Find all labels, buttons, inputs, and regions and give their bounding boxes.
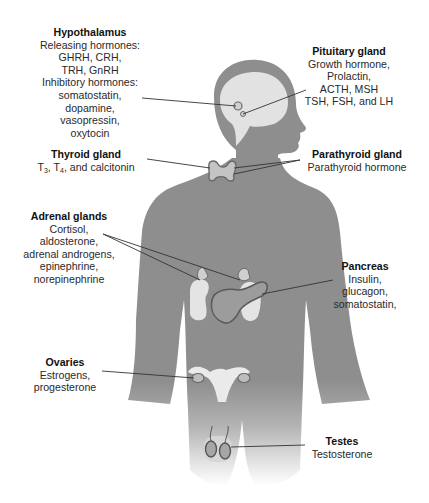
label-pituitary: Pituitary gland Growth hormone, Prolacti… <box>304 45 394 108</box>
adrenal-line: adrenal androgens, <box>14 248 124 261</box>
label-adrenal: Adrenal glands Cortisol, aldosterone, ad… <box>14 210 124 286</box>
label-hypothalamus: Hypothalamus Releasing hormones: GHRH, C… <box>30 26 150 139</box>
adrenal-title: Adrenal glands <box>14 210 124 223</box>
leader-thyroid <box>147 159 210 168</box>
pituitary-line: Prolactin, <box>304 70 394 83</box>
adrenal-line: epinephrine, <box>14 260 124 273</box>
label-testes: Testes Testosterone <box>306 435 378 460</box>
pituitary-title: Pituitary gland <box>304 45 394 58</box>
ovaries-line: progesterone <box>30 381 100 394</box>
hypothalamus-line: vasopressin, <box>30 114 150 127</box>
label-parathyroid: Parathyroid gland Parathyroid hormone <box>302 148 412 173</box>
testes-line: Testosterone <box>306 448 378 461</box>
adrenal-line: Cortisol, <box>14 223 124 236</box>
hypothalamus-line: Inhibitory hormones: <box>30 76 150 89</box>
hypothalamus-line: somatostatin, <box>30 89 150 102</box>
pituitary-line: ACTH, MSH <box>304 83 394 96</box>
hypothalamus-line: TRH, GnRH <box>30 64 150 77</box>
hypothalamus-line: dopamine, <box>30 102 150 115</box>
adrenal-line: norepinephrine <box>14 273 124 286</box>
ovaries-line: Estrogens, <box>30 369 100 382</box>
pancreas-line: somatostatin, <box>330 298 400 311</box>
thyroid-line: T3, T4, and calcitonin <box>26 161 146 174</box>
parathyroid-line: Parathyroid hormone <box>302 161 412 174</box>
pancreas-line: glucagon, <box>330 285 400 298</box>
hypothalamus-title: Hypothalamus <box>30 26 150 39</box>
label-pancreas: Pancreas Insulin, glucagon, somatostatin… <box>330 260 400 310</box>
thyroid-title: Thyroid gland <box>26 148 146 161</box>
pancreas-line: Insulin, <box>330 273 400 286</box>
adrenal-line: aldosterone, <box>14 235 124 248</box>
label-thyroid: Thyroid gland T3, T4, and calcitonin <box>26 148 146 173</box>
hypothalamus-line: GHRH, CRH, <box>30 51 150 64</box>
parathyroid-title: Parathyroid gland <box>302 148 412 161</box>
ovaries-title: Ovaries <box>30 356 100 369</box>
hypothalamus-line: Releasing hormones: <box>30 39 150 52</box>
pituitary-line: Growth hormone, <box>304 58 394 71</box>
pancreas-title: Pancreas <box>330 260 400 273</box>
label-ovaries: Ovaries Estrogens, progesterone <box>30 356 100 394</box>
hypothalamus-line: oxytocin <box>30 127 150 140</box>
pituitary-line: TSH, FSH, and LH <box>304 95 394 108</box>
testes-title: Testes <box>306 435 378 448</box>
